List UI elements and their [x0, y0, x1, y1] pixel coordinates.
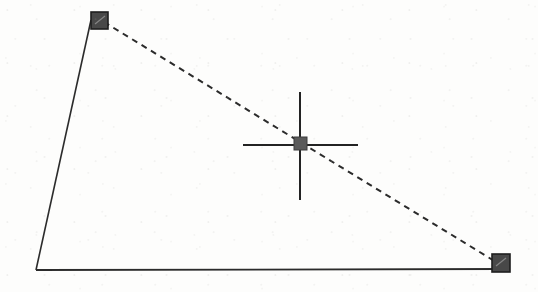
drawing-surface[interactable] [0, 0, 538, 292]
handle-drag-canvas[interactable] [0, 0, 538, 292]
polygon-left-edge[interactable] [36, 20, 91, 270]
vertex-handle-bottom-right[interactable] [492, 254, 510, 272]
midpoint-grip[interactable] [294, 137, 307, 150]
vertex-handle-bottom-right-square[interactable] [492, 254, 510, 272]
polygon-bottom-edge[interactable] [36, 269, 501, 270]
vertex-handle-top-left[interactable] [91, 12, 108, 29]
midpoint-grip-square[interactable] [294, 137, 307, 150]
